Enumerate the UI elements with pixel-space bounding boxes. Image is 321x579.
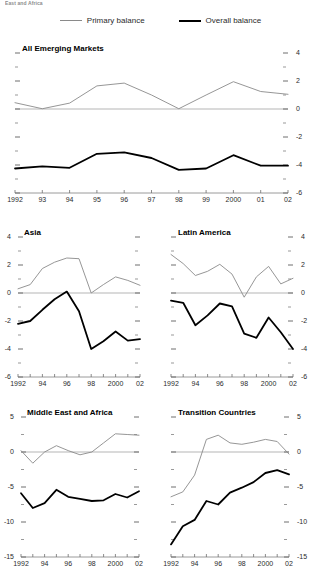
y-tick-label: -5 bbox=[8, 483, 14, 491]
series-line-primary-balance bbox=[171, 255, 293, 298]
y-tick-label: -10 bbox=[297, 518, 307, 526]
y-tick-label: -10 bbox=[4, 518, 14, 526]
legend-swatch-primary-balance bbox=[60, 20, 82, 21]
x-tick-label: 98 bbox=[231, 560, 253, 568]
legend-item-overall-balance: Overall balance bbox=[179, 16, 262, 25]
x-tick-label: 94 bbox=[184, 380, 206, 388]
y-tick-label: 0 bbox=[296, 105, 300, 113]
x-tick-label: 97 bbox=[141, 196, 163, 204]
panel-title-latin-america: Latin America bbox=[178, 228, 231, 237]
x-tick-label: 2000 bbox=[222, 196, 244, 204]
x-tick-label: 96 bbox=[207, 560, 229, 568]
x-tick-label: 02 bbox=[278, 560, 300, 568]
series-line-overall-balance bbox=[18, 292, 140, 349]
y-tick-label: -4 bbox=[5, 345, 11, 353]
chart-svg-0 bbox=[15, 53, 289, 194]
x-tick-label: 2000 bbox=[104, 560, 126, 568]
panel-title-asia: Asia bbox=[24, 228, 41, 237]
chart-svg-2 bbox=[171, 237, 294, 378]
panel-title-middle-east-and-africa: Middle East and Africa bbox=[27, 408, 113, 417]
series-line-primary-balance bbox=[171, 435, 289, 497]
series-line-primary-balance bbox=[21, 434, 139, 463]
legend-label-overall-balance: Overall balance bbox=[206, 16, 262, 25]
y-tick-label: 4 bbox=[296, 49, 300, 57]
panel-middle-east-and-africa: Middle East and Africa 50-5-10-151992949… bbox=[0, 408, 162, 579]
x-tick-label: 99 bbox=[195, 196, 217, 204]
x-tick-label: 02 bbox=[129, 380, 151, 388]
series-line-overall-balance bbox=[21, 490, 139, 508]
x-tick-label: 2000 bbox=[105, 380, 127, 388]
y-tick-label: 2 bbox=[301, 261, 305, 269]
legend-item-primary-balance: Primary balance bbox=[60, 16, 145, 25]
x-tick-label: 02 bbox=[282, 380, 304, 388]
x-tick-label: 1992 bbox=[160, 380, 182, 388]
x-tick-label: 94 bbox=[34, 560, 56, 568]
x-tick-label: 96 bbox=[56, 380, 78, 388]
x-tick-label: 93 bbox=[31, 196, 53, 204]
x-tick-label: 95 bbox=[86, 196, 108, 204]
y-tick-label: 0 bbox=[301, 289, 305, 297]
panel-title-all-emerging-markets: All Emerging Markets bbox=[22, 44, 104, 53]
y-tick-label: -2 bbox=[296, 133, 302, 141]
top-caption: East and Africa bbox=[5, 0, 43, 6]
plot-latin-america: 420-2-4-61992949698200002 bbox=[171, 237, 294, 378]
x-tick-label: 94 bbox=[59, 196, 81, 204]
y-tick-label: 0 bbox=[297, 448, 301, 456]
plot-transition-countries: 50-5-10-151992949698200002 bbox=[171, 417, 290, 558]
chart-legend: Primary balance Overall balance bbox=[0, 16, 321, 25]
series-line-overall-balance bbox=[171, 470, 289, 544]
y-tick-label: -2 bbox=[5, 317, 11, 325]
y-tick-label: 4 bbox=[301, 233, 305, 241]
x-tick-label: 98 bbox=[80, 380, 102, 388]
y-tick-label: 5 bbox=[297, 413, 301, 421]
panel-title-transition-countries: Transition Countries bbox=[178, 408, 256, 417]
chart-svg-1 bbox=[18, 237, 141, 378]
panel-all-emerging-markets: All Emerging Markets 420-2-4-61992939495… bbox=[0, 44, 321, 212]
panel-asia: Asia 420-2-4-61992949698200002 bbox=[0, 228, 162, 398]
legend-label-primary-balance: Primary balance bbox=[87, 16, 145, 25]
x-tick-label: 02 bbox=[128, 560, 150, 568]
series-line-overall-balance bbox=[15, 152, 288, 170]
plot-all-emerging-markets: 420-2-4-619929394959697989920000102 bbox=[15, 53, 289, 194]
x-tick-label: 96 bbox=[113, 196, 135, 204]
x-tick-label: 1992 bbox=[4, 196, 26, 204]
y-tick-label: -4 bbox=[301, 345, 307, 353]
x-tick-label: 1992 bbox=[7, 380, 29, 388]
x-tick-label: 1992 bbox=[160, 560, 182, 568]
y-tick-label: -5 bbox=[297, 483, 303, 491]
series-line-overall-balance bbox=[171, 301, 293, 349]
y-tick-label: 5 bbox=[10, 413, 14, 421]
x-tick-label: 96 bbox=[209, 380, 231, 388]
legend-swatch-overall-balance bbox=[179, 20, 201, 22]
x-tick-label: 98 bbox=[81, 560, 103, 568]
x-tick-label: 98 bbox=[168, 196, 190, 204]
plot-middle-east-and-africa: 50-5-10-151992949698200002 bbox=[21, 417, 140, 558]
y-tick-label: 2 bbox=[7, 261, 11, 269]
x-tick-label: 98 bbox=[233, 380, 255, 388]
series-line-primary-balance bbox=[18, 258, 140, 293]
y-tick-label: 0 bbox=[10, 448, 14, 456]
x-tick-label: 01 bbox=[250, 196, 272, 204]
y-tick-label: -4 bbox=[296, 161, 302, 169]
series-line-primary-balance bbox=[15, 82, 288, 109]
x-tick-label: 1992 bbox=[10, 560, 32, 568]
panel-latin-america: Latin America 420-2-4-61992949698200002 bbox=[160, 228, 321, 398]
plot-asia: 420-2-4-61992949698200002 bbox=[18, 237, 141, 378]
x-tick-label: 96 bbox=[57, 560, 79, 568]
panel-transition-countries: Transition Countries 50-5-10-15199294969… bbox=[160, 408, 321, 579]
x-tick-label: 2000 bbox=[254, 560, 276, 568]
y-tick-label: 4 bbox=[7, 233, 11, 241]
chart-svg-3 bbox=[21, 417, 140, 558]
x-tick-label: 94 bbox=[184, 560, 206, 568]
x-tick-label: 2000 bbox=[258, 380, 280, 388]
chart-svg-4 bbox=[171, 417, 290, 558]
y-tick-label: 0 bbox=[7, 289, 11, 297]
x-tick-label: 94 bbox=[31, 380, 53, 388]
x-tick-label: 02 bbox=[277, 196, 299, 204]
y-tick-label: -2 bbox=[301, 317, 307, 325]
y-tick-label: 2 bbox=[296, 77, 300, 85]
